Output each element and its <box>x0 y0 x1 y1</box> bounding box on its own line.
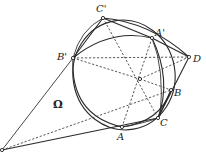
dash-a-prime-a <box>122 38 152 127</box>
point-b <box>169 88 172 91</box>
label-omega: Ω <box>53 98 63 111</box>
label-b: B <box>173 87 181 98</box>
dash-o-d <box>140 57 189 79</box>
arc-b-prime-a <box>73 58 122 127</box>
point-c-prime <box>101 16 104 19</box>
label-b-prime: B' <box>56 51 67 62</box>
point-a <box>120 125 123 128</box>
label-a-prime: A' <box>154 27 165 38</box>
point-p <box>0 148 3 151</box>
dash-o-b <box>140 79 171 90</box>
point-center <box>138 77 141 80</box>
label-a: A <box>116 131 124 142</box>
point-a-prime <box>150 36 153 39</box>
line-c-prime-b-prime <box>73 18 103 58</box>
point-d <box>187 55 190 58</box>
label-c: C <box>160 117 168 128</box>
geometry-diagram: C' A' D B' B C A Ω <box>0 0 206 158</box>
line-b-c <box>158 90 171 118</box>
line-p-c <box>2 118 158 150</box>
dash-b-prime-o <box>73 58 140 79</box>
point-b-prime <box>71 56 74 59</box>
label-d: D <box>192 53 201 64</box>
label-c-prime: C' <box>96 3 106 14</box>
